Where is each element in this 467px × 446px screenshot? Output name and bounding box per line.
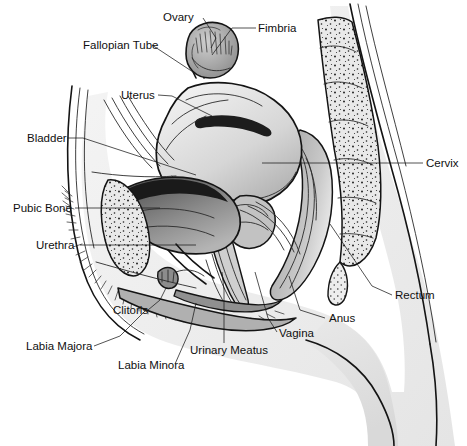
label-ovary: Ovary <box>163 11 194 23</box>
label-labia-minora: Labia Minora <box>118 359 185 371</box>
label-uterus: Uterus <box>121 89 155 101</box>
label-bladder: Bladder <box>27 132 67 144</box>
anatomy-illustration: OvaryFimbriaFallopian TubeUterusBladderC… <box>0 0 467 446</box>
label-fallopian-tube: Fallopian Tube <box>83 39 158 51</box>
label-urinary-meatus: Urinary Meatus <box>190 344 268 356</box>
label-pubic-bone: Pubic Bone <box>13 202 72 214</box>
ovary-body <box>186 22 238 78</box>
label-clitoris: Clitoris <box>113 304 148 316</box>
label-labia-majora: Labia Majora <box>26 340 93 352</box>
label-urethra: Urethra <box>36 239 75 251</box>
label-anus: Anus <box>329 312 355 324</box>
label-vagina: Vagina <box>279 327 315 339</box>
label-fimbria: Fimbria <box>258 22 297 34</box>
anatomy-diagram: OvaryFimbriaFallopian TubeUterusBladderC… <box>0 0 467 446</box>
label-cervix: Cervix <box>426 157 459 169</box>
label-rectum: Rectum <box>395 289 435 301</box>
